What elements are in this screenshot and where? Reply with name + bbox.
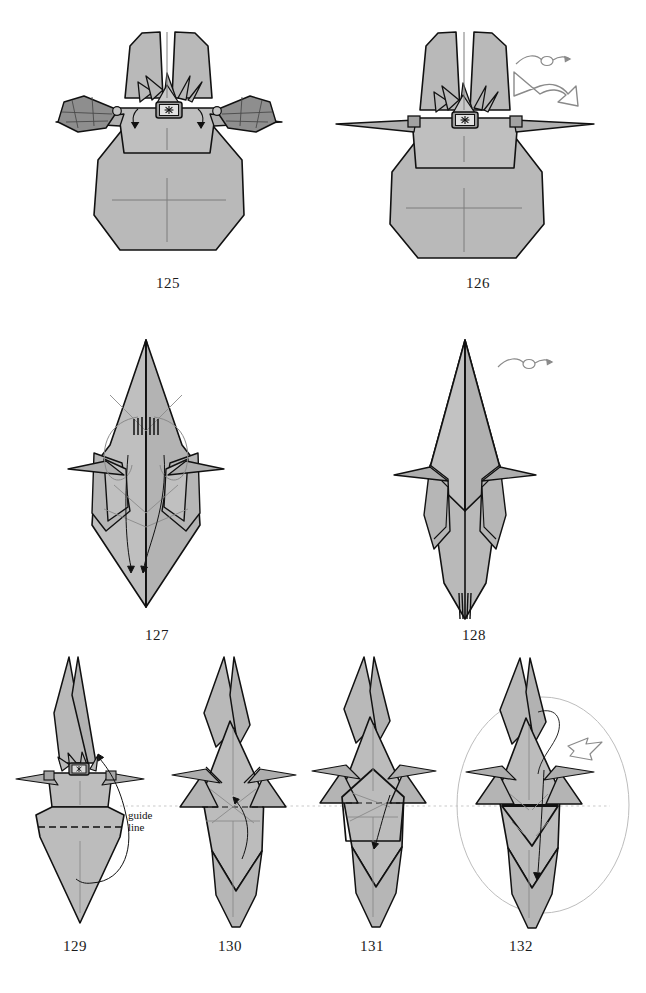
rotate-arrow-126	[514, 72, 578, 106]
guide-line-note-line2: line	[128, 822, 152, 834]
instruction-page: 125	[0, 0, 646, 993]
step-label-125: 125	[156, 275, 180, 292]
turn-over-symbol-128	[498, 359, 552, 369]
step-label-129: 129	[63, 938, 87, 955]
guide-line-note-line1: guide	[128, 810, 152, 822]
step-label-131: 131	[360, 938, 384, 955]
turn-over-symbol-126	[516, 56, 570, 66]
step-label-130: 130	[218, 938, 242, 955]
figure-127	[70, 335, 290, 625]
figure-128	[390, 335, 610, 625]
step-label-127: 127	[145, 627, 169, 644]
figure-125	[20, 10, 320, 280]
head-badge-126	[452, 112, 478, 128]
dark-flap-right-125	[213, 96, 276, 132]
step-label-128: 128	[462, 627, 486, 644]
guide-line-note: guide line	[128, 810, 152, 833]
dark-flap-left-125	[58, 96, 121, 132]
head-badge-125	[156, 102, 182, 118]
step-label-132: 132	[509, 938, 533, 955]
figure-132	[440, 650, 646, 940]
head-badge-129	[69, 763, 89, 775]
figure-126	[330, 10, 630, 280]
step-label-126: 126	[466, 275, 490, 292]
figure-129	[14, 655, 194, 935]
rotate-arrow-small-132	[568, 738, 602, 760]
